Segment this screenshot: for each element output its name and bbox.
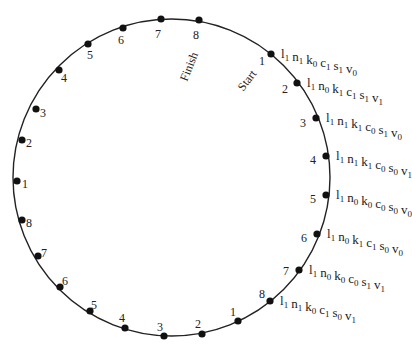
- left-arc-points: 1234567812345678: [13, 15, 241, 339]
- point-number: 2: [26, 136, 32, 150]
- left-point-2: 3: [157, 320, 168, 340]
- point-number: 6: [62, 274, 68, 288]
- point-number: 5: [87, 48, 93, 62]
- left-point-9: 2: [18, 136, 32, 150]
- point-dot: [198, 330, 205, 337]
- right-point-7: 8l1n1k0c1s0v1: [259, 287, 356, 325]
- point-number: 2: [282, 82, 288, 96]
- state-cycle-diagram: FinishStart 1234567812345678 1l1n1k0c1s1…: [0, 0, 412, 351]
- point-dot: [322, 152, 329, 159]
- point-dot: [266, 297, 273, 304]
- left-point-8: 1: [13, 177, 28, 191]
- left-point-5: 6: [56, 274, 68, 291]
- point-number: 3: [300, 116, 306, 130]
- point-dot: [32, 105, 39, 112]
- point-number: 5: [91, 298, 97, 312]
- finish-label: Finish: [177, 50, 201, 83]
- point-number: 6: [118, 33, 124, 47]
- left-point-10: 3: [32, 105, 46, 119]
- start-label: Start: [235, 66, 260, 93]
- point-number: 4: [310, 153, 316, 167]
- right-point-6: 7l1n0k0c0s1v1: [283, 262, 385, 294]
- point-number: 7: [41, 246, 47, 260]
- point-number: 5: [310, 192, 316, 206]
- point-number: 2: [195, 317, 201, 331]
- point-dot: [157, 15, 164, 22]
- point-dot: [312, 114, 319, 121]
- state-label: l1n0k1c1s1v1: [307, 75, 383, 107]
- right-point-2: 3l1n1k1c0s1v0: [300, 110, 402, 142]
- point-number: 4: [119, 311, 125, 325]
- left-point-11: 4: [55, 66, 67, 84]
- point-dot: [322, 191, 329, 198]
- point-number: 8: [193, 28, 199, 42]
- point-number: 3: [157, 320, 163, 334]
- point-number: 7: [283, 264, 289, 278]
- right-point-1: 2l1n0k1c1s1v1: [282, 75, 383, 107]
- point-dot: [13, 177, 20, 184]
- state-label: l1n0k1c1s0v0: [327, 226, 403, 258]
- left-point-0: 1: [230, 305, 242, 325]
- left-point-6: 7: [34, 246, 47, 260]
- point-number: 1: [230, 305, 236, 319]
- point-number: 1: [259, 54, 265, 68]
- point-dot: [84, 40, 91, 47]
- left-point-3: 4: [119, 311, 129, 332]
- state-label: l1n0k0c0s1v1: [309, 262, 385, 294]
- left-point-4: 5: [86, 298, 97, 315]
- state-label: l1n1k1c0s1v0: [326, 110, 402, 142]
- point-number: 7: [155, 27, 161, 41]
- start-finish-markers: FinishStart: [177, 50, 260, 93]
- right-arc-points: 1l1n1k0c1s1v02l1n0k1c1s1v13l1n1k1c0s1v04…: [259, 46, 412, 325]
- point-number: 4: [61, 71, 67, 85]
- state-label: l1n1k1c0s0v1: [336, 148, 412, 180]
- right-point-0: 1l1n1k0c1s1v0: [259, 46, 357, 78]
- state-label: l1n1k0c1s1v0: [281, 46, 357, 78]
- point-number: 8: [26, 216, 32, 230]
- point-number: 6: [301, 231, 307, 245]
- state-label: l1n0k0c0s0v0: [336, 187, 412, 219]
- point-number: 3: [40, 106, 46, 120]
- right-point-3: 4l1n1k1c0s0v1: [310, 148, 412, 180]
- point-dot: [313, 230, 320, 237]
- point-dot: [119, 24, 126, 31]
- point-number: 1: [22, 177, 28, 191]
- left-point-12: 5: [84, 40, 93, 61]
- point-dot: [295, 266, 302, 273]
- point-dot: [18, 136, 25, 143]
- point-dot: [293, 79, 300, 86]
- point-number: 8: [259, 287, 265, 301]
- point-dot: [195, 16, 202, 23]
- point-dot: [267, 50, 274, 57]
- point-dot: [121, 324, 128, 331]
- point-dot: [18, 216, 25, 223]
- state-label: l1n1k0c1s0v1: [280, 293, 356, 325]
